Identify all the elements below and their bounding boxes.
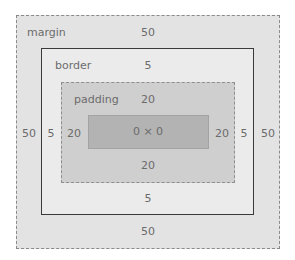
- padding-bottom-value[interactable]: 20: [141, 160, 155, 172]
- border-left-value[interactable]: 5: [48, 128, 55, 140]
- padding-top-value[interactable]: 20: [141, 94, 155, 106]
- border-bottom-value[interactable]: 5: [145, 193, 152, 205]
- margin-top-value[interactable]: 50: [141, 27, 155, 39]
- padding-label: padding: [74, 94, 119, 106]
- border-label: border: [55, 60, 91, 72]
- border-right-value[interactable]: 5: [241, 128, 248, 140]
- margin-bottom-value[interactable]: 50: [141, 226, 155, 238]
- margin-label: margin: [27, 27, 66, 39]
- margin-right-value[interactable]: 50: [261, 128, 275, 140]
- padding-left-value[interactable]: 20: [67, 128, 81, 140]
- margin-left-value[interactable]: 50: [22, 128, 36, 140]
- content-size-value[interactable]: 0 × 0: [133, 126, 163, 138]
- border-top-value[interactable]: 5: [145, 60, 152, 72]
- padding-right-value[interactable]: 20: [215, 128, 229, 140]
